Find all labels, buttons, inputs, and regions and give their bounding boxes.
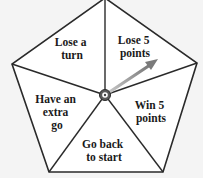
spinner-diagram: Lose a turn Lose 5 points Win 5 points G…	[0, 0, 203, 178]
sector-label-go-back-to-start: Go back to start	[82, 138, 126, 163]
spinner-svg: Lose a turn Lose 5 points Win 5 points G…	[0, 0, 203, 178]
spinner-hub-icon	[100, 90, 111, 101]
sector-label-lose-5-points: Lose 5 points	[118, 34, 153, 60]
sector-label-win-5-points: Win 5 points	[135, 99, 167, 125]
